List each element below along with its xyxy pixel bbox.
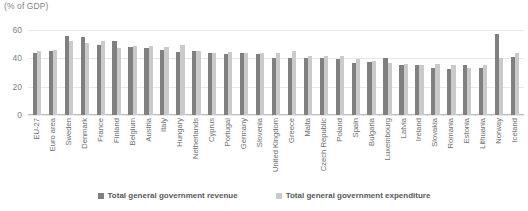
x-axis-tick-label: Norway bbox=[495, 118, 503, 144]
x-axis-label-cell: Lithuania bbox=[475, 116, 491, 186]
bar-group[interactable] bbox=[396, 30, 412, 115]
bar-group[interactable] bbox=[125, 30, 141, 115]
bar-group[interactable] bbox=[284, 30, 300, 115]
bar-expenditure[interactable] bbox=[101, 41, 105, 115]
x-axis-label-cell: Germany bbox=[236, 116, 252, 186]
bar-expenditure[interactable] bbox=[133, 46, 137, 115]
bar-group[interactable] bbox=[332, 30, 348, 115]
bar-group[interactable] bbox=[268, 30, 284, 115]
bar-group[interactable] bbox=[443, 30, 459, 115]
legend-label: Total general government expenditure bbox=[286, 191, 431, 200]
bar-group[interactable] bbox=[475, 30, 491, 115]
x-axis-label-cell: Austria bbox=[141, 116, 157, 186]
bar-group[interactable] bbox=[109, 30, 125, 115]
bar-expenditure[interactable] bbox=[388, 63, 392, 115]
bar-expenditure[interactable] bbox=[85, 43, 89, 115]
bar-expenditure[interactable] bbox=[164, 47, 168, 115]
x-axis-label-cell: EU-27 bbox=[29, 116, 45, 186]
chart-legend: Total general government revenueTotal ge… bbox=[0, 191, 528, 200]
x-axis-tick-label: Slovenia bbox=[256, 118, 264, 147]
bar-expenditure[interactable] bbox=[276, 53, 280, 115]
bar-group[interactable] bbox=[77, 30, 93, 115]
bar-expenditure[interactable] bbox=[499, 58, 503, 115]
x-axis-label-cell: Greece bbox=[284, 116, 300, 186]
x-axis-tick-label: Luxembourg bbox=[384, 118, 392, 160]
x-axis-label-cell: Norway bbox=[491, 116, 507, 186]
bar-group[interactable] bbox=[204, 30, 220, 115]
bar-expenditure[interactable] bbox=[244, 53, 248, 115]
x-axis-tick-label: Germany bbox=[240, 118, 248, 149]
bar-group[interactable] bbox=[236, 30, 252, 115]
x-axis-label-cell: Ireland bbox=[412, 116, 428, 186]
chart-container: (% of GDP) 0204060 EU-27Euro areaSwedenD… bbox=[0, 0, 528, 211]
bar-expenditure[interactable] bbox=[340, 56, 344, 116]
bar-group[interactable] bbox=[45, 30, 61, 115]
bar-expenditure[interactable] bbox=[196, 51, 200, 115]
bar-group[interactable] bbox=[29, 30, 45, 115]
bar-expenditure[interactable] bbox=[356, 59, 360, 115]
bar-expenditure[interactable] bbox=[180, 45, 184, 115]
x-axis-tick-label: Portugal bbox=[224, 118, 232, 146]
bar-expenditure[interactable] bbox=[292, 51, 296, 115]
x-axis-tick-label: Cyprus bbox=[208, 118, 216, 142]
bar-group[interactable] bbox=[172, 30, 188, 115]
bar-group[interactable] bbox=[157, 30, 173, 115]
plot-area bbox=[28, 30, 524, 115]
bar-expenditure[interactable] bbox=[212, 53, 216, 115]
bar-group[interactable] bbox=[316, 30, 332, 115]
bar-expenditure[interactable] bbox=[117, 48, 121, 115]
x-axis-label-cell: Portugal bbox=[220, 116, 236, 186]
legend-swatch-icon bbox=[98, 193, 104, 199]
bar-group[interactable] bbox=[220, 30, 236, 115]
bar-group[interactable] bbox=[380, 30, 396, 115]
legend-item-revenue[interactable]: Total general government revenue bbox=[98, 191, 238, 200]
x-axis-label-cell: Belgium bbox=[125, 116, 141, 186]
bar-group[interactable] bbox=[412, 30, 428, 115]
x-axis-tick-label: Denmark bbox=[81, 118, 89, 149]
bar-groups bbox=[28, 30, 524, 115]
bar-expenditure[interactable] bbox=[324, 56, 328, 116]
x-axis-tick-label: Czech Republic bbox=[320, 118, 328, 171]
x-axis-label-cell: Czech Republic bbox=[316, 116, 332, 186]
bar-group[interactable] bbox=[348, 30, 364, 115]
bar-expenditure[interactable] bbox=[149, 46, 153, 115]
bar-expenditure[interactable] bbox=[372, 61, 376, 115]
x-axis-label-cell: Netherlands bbox=[188, 116, 204, 186]
legend-item-expenditure[interactable]: Total general government expenditure bbox=[276, 191, 431, 200]
bar-group[interactable] bbox=[252, 30, 268, 115]
x-axis-tick-label: Belgium bbox=[129, 118, 137, 145]
x-axis-label-cell: Finland bbox=[109, 116, 125, 186]
bar-expenditure[interactable] bbox=[451, 65, 455, 115]
x-axis-label-cell: Malta bbox=[300, 116, 316, 186]
bar-expenditure[interactable] bbox=[467, 68, 471, 115]
bar-expenditure[interactable] bbox=[69, 41, 73, 115]
bar-group[interactable] bbox=[459, 30, 475, 115]
bar-expenditure[interactable] bbox=[435, 64, 439, 115]
bar-group[interactable] bbox=[427, 30, 443, 115]
x-axis-label-cell: Euro area bbox=[45, 116, 61, 186]
bar-group[interactable] bbox=[188, 30, 204, 115]
bar-expenditure[interactable] bbox=[515, 53, 519, 115]
bar-expenditure[interactable] bbox=[483, 65, 487, 115]
bar-expenditure[interactable] bbox=[37, 51, 41, 115]
bar-expenditure[interactable] bbox=[404, 64, 408, 115]
bar-group[interactable] bbox=[61, 30, 77, 115]
bar-expenditure[interactable] bbox=[260, 53, 264, 115]
x-axis-tick-label: Greece bbox=[288, 118, 296, 143]
x-axis-tick-label: Malta bbox=[304, 118, 312, 137]
x-axis-tick-label: Austria bbox=[145, 118, 153, 142]
y-axis-tick-label: 0 bbox=[17, 110, 22, 120]
bar-expenditure[interactable] bbox=[308, 56, 312, 115]
bar-group[interactable] bbox=[507, 30, 523, 115]
x-axis-tick-label: Slovakia bbox=[432, 118, 440, 147]
bar-expenditure[interactable] bbox=[228, 52, 232, 115]
bar-expenditure[interactable] bbox=[419, 65, 423, 115]
bar-group[interactable] bbox=[364, 30, 380, 115]
x-axis-tick-label: Romania bbox=[448, 118, 456, 148]
bar-group[interactable] bbox=[141, 30, 157, 115]
bar-group[interactable] bbox=[93, 30, 109, 115]
bar-group[interactable] bbox=[300, 30, 316, 115]
bar-expenditure[interactable] bbox=[53, 50, 57, 115]
bar-group[interactable] bbox=[491, 30, 507, 115]
x-axis-tick-label: Iceland bbox=[511, 118, 519, 143]
